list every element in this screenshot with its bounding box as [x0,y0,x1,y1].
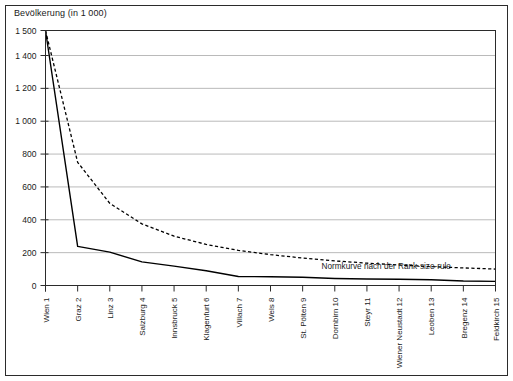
y-axis-tick-group [41,31,49,286]
x-axis-tick-label: St. Pölten 9 [299,297,308,339]
y-axis-tick-label: 200 [22,248,36,258]
annotation-group: Normkurve nach der Rank-size-rule [322,262,452,271]
x-axis-label-group: Wien 1Graz 2Linz 3Salzburg 4Innsbruck 5K… [42,297,501,368]
series-line-normcurve [46,31,496,270]
x-axis-tick-label: Wien 1 [42,297,51,322]
x-axis-tick-label: Leoben 13 [427,297,436,335]
chart-figure: Bevölkerung (in 1 000) 02004006008001 00… [0,0,513,381]
y-axis-tick-label: 1 200 [15,83,37,93]
y-axis-tick-label: 400 [22,215,36,225]
x-axis-tick-label: Wiener Neustadt 12 [395,297,404,368]
x-axis-tick-label: Innsbruck 5 [170,297,179,339]
y-axis-tick-label: 800 [22,149,36,159]
plot-area: 02004006008001 0001 2001 4001 500 Wien 1… [0,0,513,381]
y-axis-tick-label: 0 [32,281,37,291]
normcurve-annotation: Normkurve nach der Rank-size-rule [322,262,452,271]
x-axis-tick-label: Graz 2 [74,297,83,322]
x-axis-tick-label: Wels 8 [267,297,276,322]
x-axis-tick-label: Villach 7 [235,297,244,328]
y-axis-tick-label: 600 [22,182,36,192]
x-axis-tick-label: Feldkirch 15 [492,297,501,341]
y-axis-tick-label: 1 400 [15,51,37,61]
x-axis-tick-label: Klagenfurt 6 [202,297,211,341]
x-axis-tick-label: Linz 3 [106,297,115,319]
plot-box-border [46,31,496,286]
y-axis-tick-label: 1 500 [15,26,37,36]
x-axis-tick-label: Dornbirn 10 [331,297,340,339]
y-axis-tick-label: 1 000 [15,116,37,126]
x-axis-tick-label: Salzburg 4 [138,297,147,336]
y-axis-label-group: 02004006008001 0001 2001 4001 500 [15,26,37,291]
x-axis-tick-label: Steyr 11 [363,297,372,327]
series-line-actual [46,31,496,282]
data-series-group [46,31,496,282]
x-axis-tick-label: Bregenz 14 [460,297,469,338]
x-axis-tick-group [46,286,496,292]
gridline-group [46,56,496,253]
